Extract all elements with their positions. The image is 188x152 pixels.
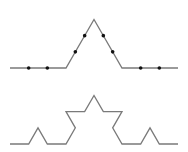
trisection-point xyxy=(102,34,106,38)
koch-level-2-figure xyxy=(10,96,178,145)
koch-diagram xyxy=(0,0,188,152)
trisection-point xyxy=(111,50,115,54)
koch-level-1-curve xyxy=(10,20,178,69)
trisection-point xyxy=(158,66,162,70)
trisection-point xyxy=(139,66,143,70)
trisection-point xyxy=(46,66,50,70)
trisection-point xyxy=(83,34,87,38)
trisection-point xyxy=(74,50,78,54)
diagram-canvas xyxy=(0,0,188,152)
trisection-point xyxy=(27,66,31,70)
koch-level-1-figure xyxy=(10,20,178,70)
koch-level-2-curve xyxy=(10,96,178,145)
